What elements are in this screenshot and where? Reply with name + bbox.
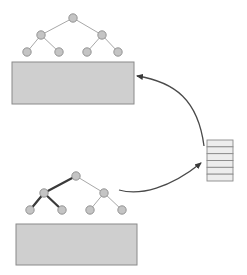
bottom-tree-node-rr	[118, 206, 126, 214]
top-tree-node-rl	[83, 48, 91, 56]
bottom-memory-block	[16, 224, 137, 265]
arrow-stack-to-top-block	[137, 76, 204, 146]
bottom-tree-edge-root-r	[76, 176, 104, 193]
stack-slot-3	[207, 154, 233, 161]
top-tree-nodes	[23, 14, 122, 56]
bottom-tree-node-rl	[86, 206, 94, 214]
bottom-tree-nodes	[26, 172, 126, 214]
stack-buffer	[207, 140, 233, 181]
bottom-tree-edge-root-l	[44, 176, 76, 193]
bottom-tree-node-root	[72, 172, 80, 180]
bottom-tree-node-l	[40, 189, 48, 197]
top-tree-node-r	[98, 31, 106, 39]
stack-slot-5	[207, 167, 233, 174]
top-tree-node-root	[69, 14, 77, 22]
arrow-bottom-tree-to-stack	[119, 163, 201, 192]
bottom-tree-node-lr	[58, 206, 66, 214]
top-tree-node-rr	[114, 48, 122, 56]
top-tree-edge-root-l	[41, 18, 73, 35]
stack-slot-4	[207, 161, 233, 168]
bottom-tree-node-ll	[26, 206, 34, 214]
top-tree-node-l	[37, 31, 45, 39]
stack-slot-2	[207, 147, 233, 154]
tree-stack-diagram	[0, 0, 247, 275]
top-tree-node-ll	[23, 48, 31, 56]
top-memory-block	[12, 62, 134, 104]
top-tree-node-lr	[55, 48, 63, 56]
bottom-tree-node-r	[100, 189, 108, 197]
stack-slot-6	[207, 174, 233, 181]
top-tree-edge-root-r	[73, 18, 102, 35]
stack-slot-1	[207, 140, 233, 147]
